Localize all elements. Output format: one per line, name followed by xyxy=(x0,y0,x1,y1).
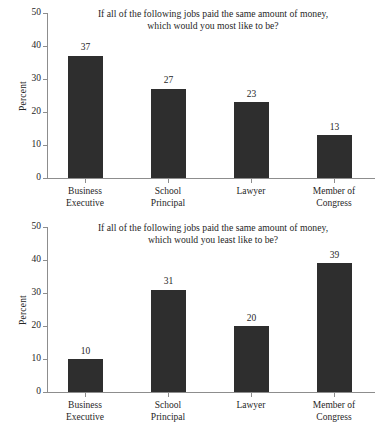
y-tick-label: 40 xyxy=(32,255,42,265)
bar-value-label: 39 xyxy=(330,251,340,261)
plot-area: Percent 0 10 20 30 40 xyxy=(48,227,375,392)
x-category-member-of-congress: Member of Congress xyxy=(279,400,389,424)
x-category-line-2: Congress xyxy=(279,412,389,424)
y-tick-label: 50 xyxy=(32,222,42,232)
bar-value-label: 10 xyxy=(81,347,91,357)
x-axis-line xyxy=(47,178,375,179)
y-axis-title: Percent xyxy=(18,81,28,111)
y-tick-mark xyxy=(43,46,48,47)
x-axis-line xyxy=(47,392,375,393)
bar-lawyer: 20 xyxy=(234,326,269,392)
y-tick-mark xyxy=(43,293,48,294)
y-tick-label: 0 xyxy=(36,173,41,183)
y-tick-mark xyxy=(43,326,48,327)
y-tick-mark xyxy=(43,260,48,261)
x-category-line-1: Member of xyxy=(279,186,389,198)
y-tick-label: 30 xyxy=(32,74,42,84)
y-tick-label: 30 xyxy=(32,288,42,298)
bar-school-principal: 31 xyxy=(151,290,186,392)
bar-chart-most-like: If all of the following jobs paid the sa… xyxy=(0,0,390,214)
x-tick-mark xyxy=(251,392,252,397)
x-tick-mark xyxy=(168,392,169,397)
y-tick-label: 40 xyxy=(32,41,42,51)
y-tick-mark xyxy=(43,227,48,228)
x-tick-mark xyxy=(85,392,86,397)
bar-value-label: 27 xyxy=(164,76,174,86)
x-category-line-1: Member of xyxy=(279,400,389,412)
y-tick-mark xyxy=(43,392,48,393)
x-tick-mark xyxy=(334,392,335,397)
x-tick-mark xyxy=(334,178,335,183)
y-tick-label: 20 xyxy=(32,107,42,117)
x-category-line-2: Principal xyxy=(113,412,223,424)
bar-lawyer: 23 xyxy=(234,102,269,178)
y-tick-mark xyxy=(43,112,48,113)
y-tick-label: 0 xyxy=(36,387,41,397)
y-tick-label: 10 xyxy=(32,140,42,150)
bar-member-of-congress: 13 xyxy=(317,135,352,178)
figure-two-bar-charts: If all of the following jobs paid the sa… xyxy=(0,0,390,428)
bar-business-executive: 10 xyxy=(68,359,103,392)
y-axis-line xyxy=(47,13,48,179)
bar-school-principal: 27 xyxy=(151,89,186,178)
plot-area: Percent 0 10 20 30 40 xyxy=(48,13,375,178)
y-tick-label: 10 xyxy=(32,354,42,364)
y-tick-label: 20 xyxy=(32,321,42,331)
bar-value-label: 13 xyxy=(330,123,340,133)
bar-value-label: 31 xyxy=(164,277,174,287)
y-tick-mark xyxy=(43,359,48,360)
bar-value-label: 23 xyxy=(247,90,257,100)
y-tick-mark xyxy=(43,13,48,14)
bar-chart-least-like: If all of the following jobs paid the sa… xyxy=(0,214,390,428)
y-tick-mark xyxy=(43,178,48,179)
bar-value-label: 20 xyxy=(247,314,257,324)
x-tick-mark xyxy=(251,178,252,183)
y-tick-mark xyxy=(43,145,48,146)
bar-business-executive: 37 xyxy=(68,56,103,178)
y-axis-title: Percent xyxy=(18,295,28,325)
y-axis-line xyxy=(47,227,48,393)
x-category-line-2: Principal xyxy=(113,198,223,210)
x-category-line-2: Congress xyxy=(279,198,389,210)
y-tick-mark xyxy=(43,79,48,80)
x-tick-mark xyxy=(168,178,169,183)
x-category-member-of-congress: Member of Congress xyxy=(279,186,389,210)
x-tick-mark xyxy=(85,178,86,183)
bar-value-label: 37 xyxy=(81,43,91,53)
bar-member-of-congress: 39 xyxy=(317,263,352,392)
y-tick-label: 50 xyxy=(32,8,42,18)
